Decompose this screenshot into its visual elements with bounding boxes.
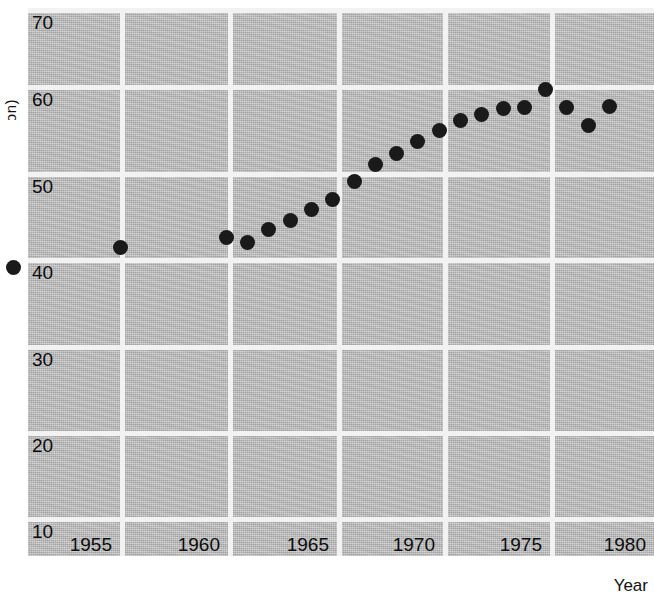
y-tick-label-70: 70 xyxy=(32,13,53,32)
data-point xyxy=(261,222,276,237)
y-tick-label-10: 10 xyxy=(32,522,53,541)
y-tick-label-30: 30 xyxy=(32,350,53,369)
x-tick-label-1965: 1965 xyxy=(277,535,329,554)
x-tick-label-1975: 1975 xyxy=(490,535,542,554)
data-point xyxy=(240,235,255,250)
data-point xyxy=(559,100,574,115)
data-point xyxy=(602,99,617,114)
gridline-x-1955 xyxy=(120,8,125,556)
data-point xyxy=(283,213,298,228)
x-axis-title: Year xyxy=(614,576,648,596)
data-point xyxy=(304,202,319,217)
data-point xyxy=(389,146,404,161)
x-tick-label-1955: 1955 xyxy=(60,535,112,554)
data-point xyxy=(6,260,21,275)
data-point xyxy=(219,230,234,245)
data-point xyxy=(517,100,532,115)
x-tick-label-1970: 1970 xyxy=(383,535,435,554)
gridline-x-1965 xyxy=(337,8,342,556)
gridline-x-1970 xyxy=(443,8,448,556)
x-tick-label-1980: 1980 xyxy=(594,535,646,554)
data-point xyxy=(496,101,511,116)
y-tick-label-50: 50 xyxy=(32,177,53,196)
gridline-x-1960 xyxy=(228,8,233,556)
y-tick-label-20: 20 xyxy=(32,436,53,455)
y-tick-label-60: 60 xyxy=(32,90,53,109)
y-tick-label-40: 40 xyxy=(32,263,53,282)
scatter-chart: (million) 70 60 50 40 30 20 10 1955 1960… xyxy=(0,0,654,610)
data-point xyxy=(368,157,383,172)
data-point xyxy=(538,82,553,97)
data-point xyxy=(410,134,425,149)
data-point xyxy=(113,240,128,255)
data-point xyxy=(453,113,468,128)
x-tick-label-1960: 1960 xyxy=(168,535,220,554)
data-point xyxy=(347,174,362,189)
y-axis-title-clip: (million) xyxy=(0,0,26,120)
data-point xyxy=(474,107,489,122)
plot-area xyxy=(28,8,654,556)
data-point xyxy=(581,118,596,133)
data-point xyxy=(432,123,447,138)
y-axis-title: (million) xyxy=(2,0,19,120)
